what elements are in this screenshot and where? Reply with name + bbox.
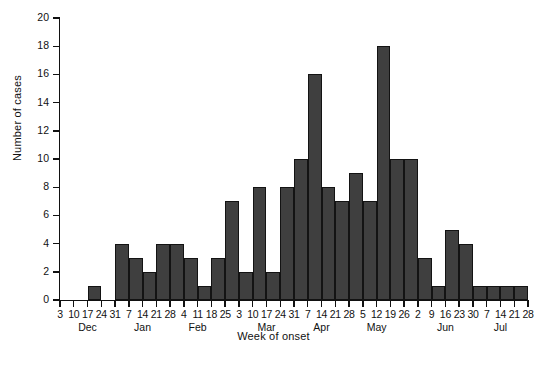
bar (184, 258, 198, 300)
x-tick-label: 17 (82, 309, 93, 320)
bar (129, 258, 143, 300)
x-tick-mark (87, 300, 88, 307)
y-tick-label: 14 (37, 97, 49, 108)
x-tick-mark (445, 300, 446, 307)
x-tick-mark (183, 300, 184, 307)
y-tick-mark (53, 17, 60, 18)
bar (514, 286, 528, 300)
x-tick-mark (527, 300, 528, 307)
y-tick-label: 18 (37, 40, 49, 51)
y-tick-mark (53, 271, 60, 272)
x-tick-label: 12 (371, 309, 382, 320)
x-tick-label: 23 (454, 309, 465, 320)
x-tick-mark (390, 300, 391, 307)
x-tick-mark (293, 300, 294, 307)
x-tick-label: 26 (399, 309, 410, 320)
bar (404, 159, 418, 300)
bar (280, 187, 294, 300)
x-tick-mark (431, 300, 432, 307)
x-tick-label: 30 (467, 309, 478, 320)
x-tick-label: 21 (330, 309, 341, 320)
y-tick-label: 10 (37, 153, 49, 164)
y-tick-mark (53, 215, 60, 216)
x-tick-mark (101, 300, 102, 307)
x-tick-label: 7 (484, 309, 490, 320)
y-tick-label: 20 (37, 12, 49, 23)
x-tick-label: 21 (509, 309, 520, 320)
bar (143, 272, 157, 300)
y-tick-mark (53, 243, 60, 244)
x-tick-label: 28 (344, 309, 355, 320)
y-tick-label: 2 (43, 266, 49, 277)
bar (225, 201, 239, 300)
x-tick-label: 14 (316, 309, 327, 320)
y-tick-mark (53, 74, 60, 75)
bar (487, 286, 501, 300)
x-tick-mark (128, 300, 129, 307)
y-tick-label: 12 (37, 125, 49, 136)
epidemic-curve-figure: 02468101214161820 Number of cases 310172… (0, 0, 547, 367)
y-tick-mark (53, 130, 60, 131)
x-tick-label: 14 (495, 309, 506, 320)
x-tick-label: 3 (236, 309, 242, 320)
bar (211, 258, 225, 300)
x-tick-label: 19 (385, 309, 396, 320)
x-tick-mark (156, 300, 157, 307)
y-tick-label: 16 (37, 68, 49, 79)
bar (308, 74, 322, 300)
x-tick-mark (211, 300, 212, 307)
bar (390, 159, 404, 300)
bar (473, 286, 487, 300)
x-tick-mark (114, 300, 115, 307)
x-tick-mark (238, 300, 239, 307)
x-tick-label: 5 (360, 309, 366, 320)
y-tick-label: 0 (43, 294, 49, 305)
x-tick-mark (500, 300, 501, 307)
x-tick-mark (335, 300, 336, 307)
bar (156, 244, 170, 300)
y-tick-mark (53, 46, 60, 47)
y-tick-mark (53, 102, 60, 103)
y-tick-mark (53, 187, 60, 188)
x-tick-mark (376, 300, 377, 307)
x-tick-label: 24 (275, 309, 286, 320)
bar (322, 187, 336, 300)
x-tick-label: 4 (181, 309, 187, 320)
x-tick-label: 28 (165, 309, 176, 320)
x-tick-label: 31 (110, 309, 121, 320)
bar (349, 173, 363, 300)
x-tick-label: 28 (522, 309, 533, 320)
x-tick-label: 3 (57, 309, 63, 320)
x-tick-mark (197, 300, 198, 307)
bar (432, 286, 446, 300)
x-tick-label: 21 (151, 309, 162, 320)
bar (239, 272, 253, 300)
bar (377, 46, 391, 300)
bar (335, 201, 349, 300)
bar (363, 201, 377, 300)
x-tick-label: 10 (68, 309, 79, 320)
x-tick-label: 9 (429, 309, 435, 320)
bar (445, 230, 459, 301)
bar (500, 286, 514, 300)
x-tick-mark (403, 300, 404, 307)
x-tick-mark (266, 300, 267, 307)
y-tick-label: 8 (43, 181, 49, 192)
y-axis-title: Number of cases (11, 38, 23, 198)
x-tick-mark (458, 300, 459, 307)
x-tick-label: 11 (192, 309, 202, 320)
x-tick-mark (280, 300, 281, 307)
x-tick-mark (321, 300, 322, 307)
x-tick-mark (362, 300, 363, 307)
x-tick-label: 25 (220, 309, 231, 320)
x-axis-title: Week of onset (0, 330, 547, 342)
y-tick-label: 4 (43, 238, 49, 249)
x-tick-mark (224, 300, 225, 307)
plot-area: 3101724317142128411182531017243171421285… (60, 18, 528, 300)
x-tick-label: 14 (137, 309, 148, 320)
x-tick-mark (142, 300, 143, 307)
bar (266, 272, 280, 300)
bar (198, 286, 212, 300)
bar (88, 286, 102, 300)
x-tick-label: 16 (440, 309, 451, 320)
